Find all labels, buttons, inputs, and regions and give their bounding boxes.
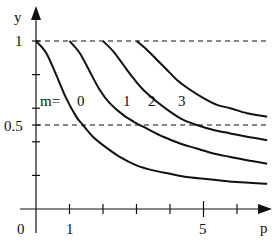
x-axis-arrow-icon <box>258 204 272 214</box>
series-label-m0: 0 <box>77 93 85 109</box>
chart: y p 0 1 5 1 0.5 m= 0 1 2 3 <box>0 0 279 241</box>
origin-label: 0 <box>17 221 25 237</box>
axes <box>20 6 272 233</box>
series-label-m1: 1 <box>123 93 131 109</box>
y-tick-label-0-5: 0.5 <box>4 118 23 134</box>
y-axis-arrow-icon <box>31 6 41 20</box>
curve-m1 <box>70 41 268 164</box>
y-tick-label-1: 1 <box>15 33 23 49</box>
curve-m0 <box>36 41 267 184</box>
series-label-m3: 3 <box>178 93 186 109</box>
curve-m3 <box>137 41 268 117</box>
x-tick-label-1: 1 <box>66 221 74 237</box>
x-axis-label: p <box>260 220 268 236</box>
y-axis-label: y <box>14 9 22 25</box>
series-label-m2: 2 <box>148 93 156 109</box>
x-tick-label-5: 5 <box>199 221 207 237</box>
curves <box>36 41 267 184</box>
legend-prefix: m= <box>40 93 60 109</box>
